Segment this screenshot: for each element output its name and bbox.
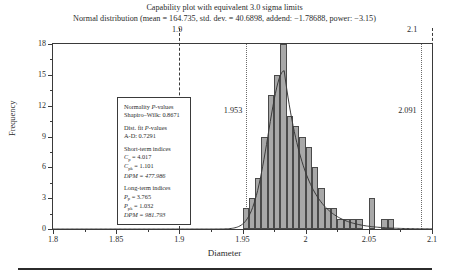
y-axis-title: Frequency [8,101,17,136]
pp-value: Pp = 3.765 [124,193,185,202]
short-term-heading: Short-term indices [124,145,185,153]
chart-title-block: Capability plot with equivalent 3.0 sigm… [0,2,449,24]
x-tick-label: 1.95 [235,235,249,244]
ppk-value: Ppk = 1.032 [124,202,185,211]
x-tick-label: 1.9 [174,235,184,244]
long-dpm-value: DPM = 981.793 [124,211,185,219]
x-tick-minor [148,229,149,232]
long-term-heading: Long-term indices [124,184,185,192]
cpk-value: Cpk = 1.101 [124,162,185,171]
x-tick [243,229,244,234]
y-tick-label: 0 [42,225,46,233]
y-tick-label: 3 [42,194,46,202]
x-tick-label: 1.85 [109,235,123,244]
x-tick [432,229,433,234]
chart-title: Capability plot with equivalent 3.0 sigm… [0,2,449,13]
x-tick [369,229,370,234]
capability-plot-page: Capability plot with equivalent 3.0 sigm… [0,0,449,276]
y-tick-label: 15 [38,71,46,79]
x-tick-minor [400,229,401,232]
y-tick-label: 6 [42,163,46,171]
y-tick-label: 9 [42,133,46,141]
shapiro-wilk-value: Shapiro–Wilk: 0.8671 [124,111,185,119]
x-tick-minor [337,229,338,232]
x-tick-label: 2.1 [427,235,437,244]
upper-spec-limit-line [432,28,433,229]
x-tick-label: 1.8 [48,235,58,244]
lower-spec-limit-label: 1.9 [172,25,182,35]
upper-spec-limit-label: 2.1 [407,25,417,35]
x-axis-title: Diameter [0,248,449,258]
short-dpm-value: DPM = 477.986 [124,172,185,180]
x-tick [306,229,307,234]
x-tick [179,229,180,234]
footer-rule [18,268,432,270]
x-tick-minor [211,229,212,232]
distfit-heading: Dist. fit P-values [124,124,185,132]
x-tick-label: 2.05 [362,235,376,244]
x-tick-label: 2 [304,235,308,244]
x-tick-minor [85,229,86,232]
x-tick [116,229,117,234]
normality-heading: Normality P-values [124,103,185,111]
statistics-legend: Normality P-values Shapiro–Wilk: 0.8671 … [117,97,191,225]
x-tick-minor [274,229,275,232]
chart-subtitle: Normal distribution (mean = 164.735, std… [0,13,449,24]
x-tick [53,229,54,234]
ad-value: A-D: 0.7291 [124,132,185,140]
y-tick-label: 12 [38,102,46,110]
plot-frame: 0369121518 1.81.851.91.9522.052.1 1.953 … [52,43,433,230]
density-curve [53,44,432,229]
y-tick-label: 18 [38,40,46,48]
cp-value: Cp = 4.017 [124,153,185,162]
